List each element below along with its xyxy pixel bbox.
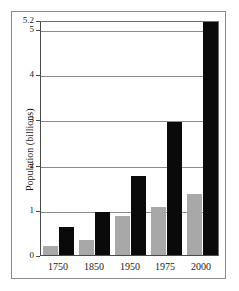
y-tick-label: 5.2	[0, 16, 34, 25]
y-tick-label: 3	[0, 115, 34, 124]
x-tick-label: 2000	[179, 261, 223, 272]
y-tick-label: 5	[0, 25, 34, 34]
y-tick-label: 0	[0, 251, 34, 260]
bar	[95, 212, 110, 255]
bar	[79, 240, 94, 255]
gridline	[41, 167, 218, 168]
bar	[187, 194, 202, 255]
bar	[131, 176, 146, 255]
gridline	[41, 121, 218, 122]
y-tick-label: 1	[0, 206, 34, 215]
y-tick-mark	[36, 256, 40, 257]
bar	[151, 207, 166, 255]
bar	[167, 122, 182, 255]
bar	[115, 216, 130, 255]
bar	[59, 227, 74, 255]
bar	[43, 246, 58, 255]
y-tick-label: 4	[0, 70, 34, 79]
plot-area	[40, 21, 219, 256]
gridline	[41, 31, 218, 32]
bar	[203, 22, 218, 255]
figure: Population (billions) 0123455.2 17501850…	[0, 0, 239, 291]
y-tick-label: 2	[0, 161, 34, 170]
gridline	[41, 76, 218, 77]
